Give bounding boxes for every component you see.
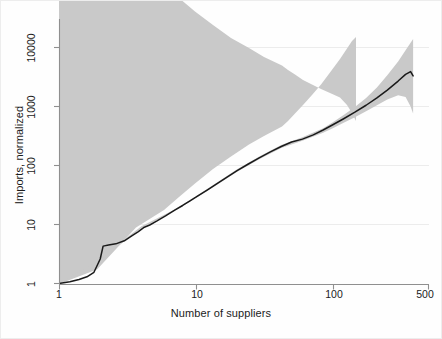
y-axis-title: Imports, normalized: [13, 75, 25, 235]
y-tick-label-10000: 10000: [25, 25, 37, 71]
x-tick-label-100: 100: [325, 288, 343, 300]
y-tick-label-1000: 1000: [25, 84, 37, 130]
x-tick-label-1: 1: [56, 288, 62, 300]
x-tick-label-10: 10: [191, 288, 203, 300]
chart-plot-area: [1, 1, 442, 339]
x-tick-label-500: 500: [416, 288, 434, 300]
x-tick-marks: [60, 285, 429, 290]
y-tick-label-1: 1: [25, 261, 37, 307]
x-axis-title: Number of suppliers: [1, 307, 441, 319]
y-tick-marks: [54, 48, 59, 284]
y-tick-label-10: 10: [25, 202, 37, 248]
y-tick-label-100: 100: [25, 143, 37, 189]
chart-figure: 1 10 100 500 10000 1000 100 10 1 Number …: [0, 0, 442, 339]
